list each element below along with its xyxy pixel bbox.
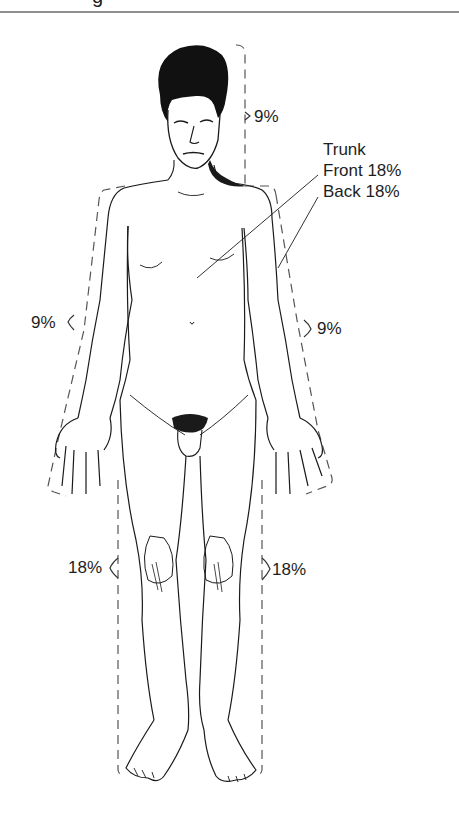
right-arm-region-outline — [276, 195, 332, 494]
torso-drawing — [108, 180, 272, 456]
hair — [158, 45, 228, 122]
right-leg-outer — [228, 400, 256, 720]
head-percentage-label: 9% — [254, 107, 279, 127]
left-leg-inner — [176, 456, 189, 730]
trunk-region-outline — [245, 186, 276, 195]
right-torso-side — [242, 228, 256, 400]
right-arm-outer — [272, 218, 300, 418]
right-arm-percentage-label: 9% — [317, 319, 342, 339]
genitals — [178, 430, 202, 456]
right-foot — [204, 720, 256, 781]
head-drawing — [158, 45, 246, 186]
left-hand — [56, 418, 112, 494]
head-bracket — [245, 112, 250, 120]
knee-shading — [152, 562, 222, 592]
pubic-hair — [172, 414, 208, 433]
right-arm-bracket — [304, 320, 311, 337]
left-leg-percentage-label: 18% — [68, 558, 102, 578]
chest-lines — [140, 192, 234, 268]
right-leg-bracket — [262, 558, 270, 580]
left-torso-side — [120, 226, 130, 400]
trunk-front-percentage: Front 18% — [323, 160, 401, 181]
right-arm-inner — [244, 228, 268, 418]
left-leg-outer — [120, 400, 154, 720]
right-hand — [267, 418, 323, 494]
left-leg-region-outline — [118, 480, 124, 776]
trunk-back-percentage: Back 18% — [323, 181, 401, 202]
right-leg-inner — [200, 456, 207, 730]
legs-drawing — [120, 400, 256, 782]
trunk-leader-lines — [197, 175, 318, 278]
trunk-title: Trunk — [323, 139, 401, 160]
navel — [190, 322, 194, 324]
mouth — [183, 153, 204, 155]
left-arm-region-outline — [48, 186, 125, 496]
right-knee — [204, 536, 233, 583]
eyes — [174, 120, 213, 123]
left-leg-bracket — [110, 558, 118, 578]
right-leg-percentage-label: 18% — [272, 560, 306, 580]
body-figure-illustration — [0, 0, 459, 816]
face-outline — [168, 110, 220, 168]
trunk-label: Trunk Front 18% Back 18% — [323, 139, 401, 202]
region-outlines — [48, 45, 332, 776]
left-arm-percentage-label: 9% — [31, 313, 56, 333]
left-arm-bracket — [68, 315, 74, 330]
shoulders — [108, 180, 272, 218]
region-brackets — [68, 112, 311, 580]
nose — [190, 126, 199, 144]
right-leg-region-outline — [256, 480, 262, 776]
head-region-outline — [236, 45, 245, 186]
